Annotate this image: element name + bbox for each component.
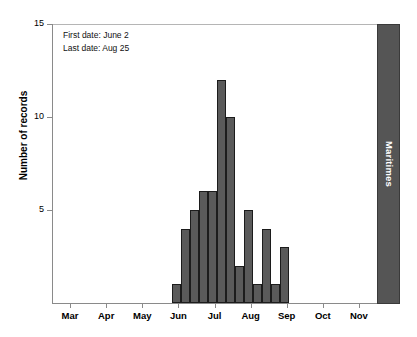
x-tick-label: Jul (195, 310, 235, 321)
bar (253, 284, 262, 303)
x-tick-label: Sep (267, 310, 307, 321)
x-tick-mark (178, 304, 179, 308)
bar (262, 229, 271, 303)
y-tick-label: 10 (4, 112, 44, 121)
bar (172, 284, 181, 303)
chart-figure: Number of records 51015 MarAprMayJunJulA… (0, 0, 417, 337)
plot-area (52, 24, 377, 303)
x-tick-label: Aug (231, 310, 271, 321)
bar (280, 247, 289, 303)
x-tick-mark (142, 304, 143, 308)
panel-strip-label: Maritimes (383, 141, 394, 187)
bar (244, 210, 253, 303)
x-tick-label: Jun (158, 310, 198, 321)
x-tick-mark (106, 304, 107, 308)
panel-strip: Maritimes (377, 24, 400, 304)
x-tick-label: Nov (339, 310, 379, 321)
x-tick-mark (215, 304, 216, 308)
y-axis-label: Number of records (18, 66, 29, 206)
x-tick-mark (323, 304, 324, 308)
bar (235, 266, 244, 303)
bar (217, 80, 226, 303)
bar (271, 284, 280, 303)
x-tick-label: Apr (86, 310, 126, 321)
last-date-text: Last date: Aug 25 (63, 42, 129, 55)
x-tick-label: May (122, 310, 162, 321)
x-tick-label: Mar (50, 310, 90, 321)
x-tick-mark (70, 304, 71, 308)
bar (226, 117, 235, 303)
x-tick-label: Oct (303, 310, 343, 321)
x-tick-mark (359, 304, 360, 308)
y-tick-label: 5 (4, 205, 44, 214)
date-range-annotation: First date: June 2 Last date: Aug 25 (63, 29, 129, 55)
bar (199, 191, 208, 303)
bar (208, 191, 217, 303)
bar (181, 229, 190, 303)
first-date-text: First date: June 2 (63, 29, 129, 42)
bar (190, 210, 199, 303)
y-tick-label: 15 (4, 19, 44, 28)
x-tick-mark (287, 304, 288, 308)
x-tick-mark (251, 304, 252, 308)
